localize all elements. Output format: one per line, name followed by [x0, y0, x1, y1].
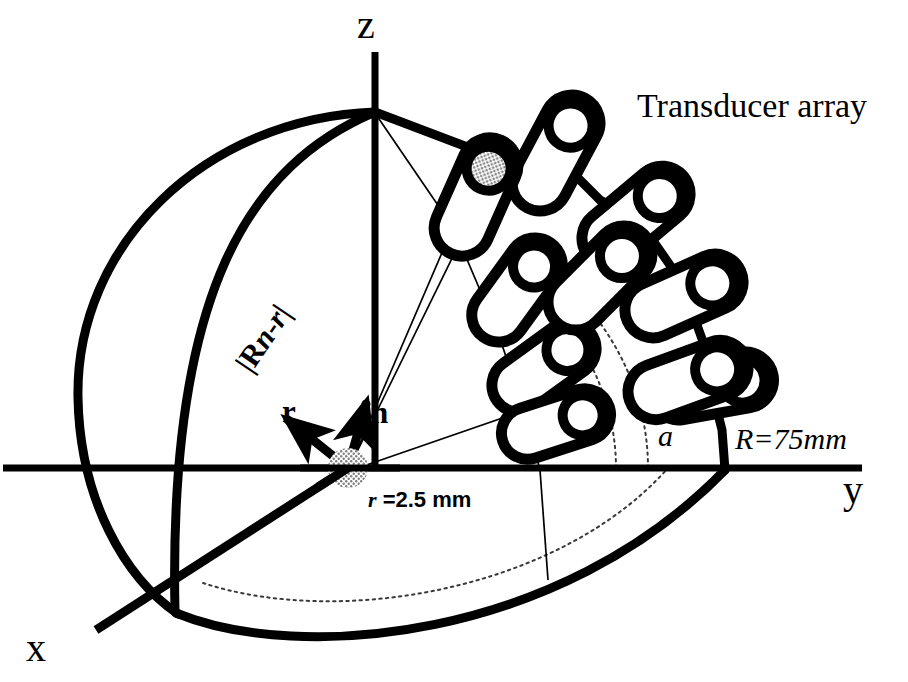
ray-Rn-minus-r	[352, 238, 462, 462]
transducer-face	[557, 390, 607, 440]
hemisphere-meridian-arc	[175, 112, 375, 612]
source-radius-symbol: r	[368, 487, 377, 512]
array-title-label: Transducer array	[637, 89, 867, 123]
source-radius-value: =2.5 mm	[377, 487, 472, 512]
x-axis-line	[96, 468, 348, 630]
z-axis-label: z	[357, 5, 375, 45]
vector-n-label: n	[371, 397, 388, 428]
hemisphere-outer-upper	[78, 112, 375, 614]
ray-origin-b	[352, 241, 447, 462]
vector-r-label: r	[282, 396, 296, 427]
figure-canvas: z y x Transducer array R=75mm a r =2.5 m…	[0, 0, 908, 682]
source-radius-label: r =2.5 mm	[368, 489, 471, 511]
ray-fan-4	[540, 470, 548, 580]
angle-label: a	[658, 421, 673, 451]
sphere-radius-label: R=75mm	[735, 424, 847, 454]
x-axis-label: x	[26, 628, 46, 668]
y-axis-label: y	[843, 470, 863, 510]
